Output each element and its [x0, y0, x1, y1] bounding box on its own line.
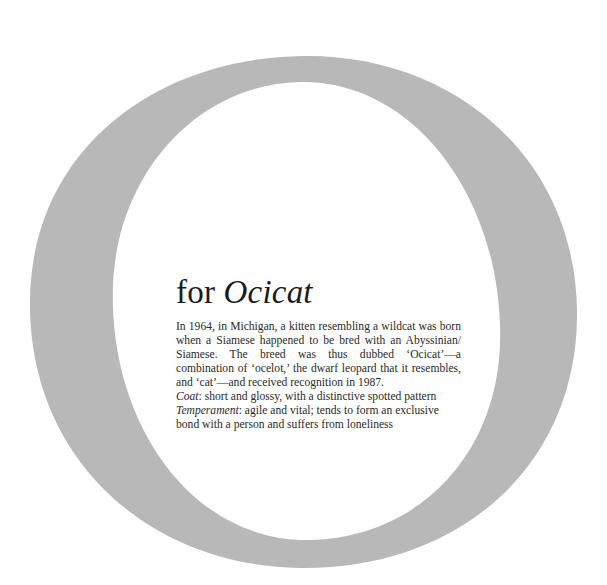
- breed-entry: for Ocicat In 1964, in Michigan, a kitte…: [176, 274, 461, 432]
- entry-body: In 1964, in Michigan, a kitten resemblin…: [176, 320, 461, 432]
- breed-history: In 1964, in Michigan, a kitten resemblin…: [176, 320, 461, 390]
- title-prefix: for: [176, 274, 215, 310]
- entry-title: for Ocicat: [176, 274, 461, 310]
- temperament-label: Temperament: [176, 404, 239, 417]
- temperament-description: Temperament: agile and vital; tends to f…: [176, 404, 461, 432]
- book-page: for Ocicat In 1964, in Michigan, a kitte…: [0, 0, 607, 585]
- coat-label: Coat: [176, 390, 199, 403]
- coat-description: Coat: short and glossy, with a distincti…: [176, 390, 461, 404]
- coat-text: : short and glossy, with a distinctive s…: [199, 390, 437, 403]
- breed-name: Ocicat: [224, 274, 313, 310]
